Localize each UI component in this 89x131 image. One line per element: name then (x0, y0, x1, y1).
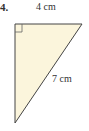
right-triangle (15, 24, 82, 123)
triangle-diagram (0, 0, 89, 131)
